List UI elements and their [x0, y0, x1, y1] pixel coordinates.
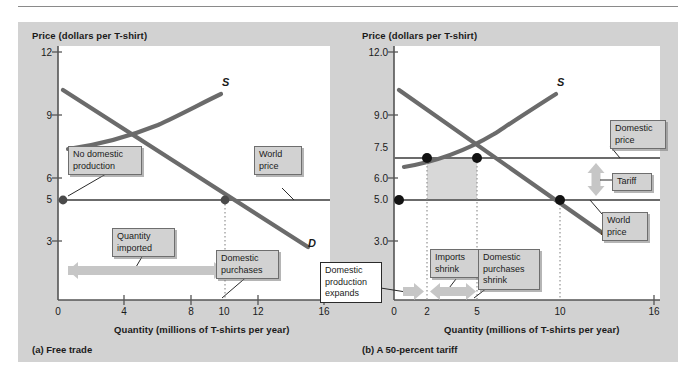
panel-b-marker-domestic-production [422, 153, 432, 163]
panel-b-marker-domestic-purchases [472, 153, 482, 163]
panel-b-imports-shrink-arrow [430, 283, 476, 300]
panel-a-demand-label: D [308, 237, 316, 249]
panel-b-graphics [348, 22, 678, 362]
panel-b-callout-domestic-purchases-shrink: Domestic purchases shrink [478, 249, 540, 290]
panel-a-quantity-imported-arrow [68, 262, 224, 279]
panel-a-callout-no-domestic-production: No domestic production [68, 146, 142, 175]
panel-a-callout-quantity-imported: Quantity imported [112, 228, 175, 257]
panel-a-marker-domestic-purchases [221, 196, 230, 205]
panel-b-callout-tariff: Tariff [612, 173, 652, 191]
panel-b-shaded-region [427, 158, 477, 200]
panel-a-callout-domestic-purchases: Domestic purchases [216, 250, 279, 279]
panel-b-leader-world-price [590, 200, 602, 214]
panel-a-graphics [18, 22, 348, 362]
panel-free-trade: Price (dollars per T-shirt) 12 9 6 5 3 0… [18, 22, 348, 362]
panel-b-production-expands-arrow [403, 283, 424, 300]
panel-b-marker-origin-world [394, 195, 404, 205]
top-rule-divider [18, 6, 678, 7]
panel-a-callout-world-price: World price [254, 146, 302, 175]
panel-a-leader-no-domestic [68, 174, 106, 196]
panel-a-leader-world-price [282, 188, 294, 200]
panel-a-marker-zero-production [59, 196, 68, 205]
panel-b-callout-world-price: World price [602, 212, 648, 241]
panel-b-supply-label: S [557, 76, 564, 88]
panel-b-callout-imports-shrink: Imports shrink [430, 249, 480, 278]
panel-b-marker-free-trade-purchases [555, 195, 565, 205]
panel-b-callout-domestic-production-expands: Domestic production expands [320, 262, 382, 303]
panel-b-callout-domestic-price: Domestic price [610, 120, 666, 149]
panel-a-supply-label: S [222, 76, 229, 88]
panel-tariff: Price (dollars per T-shirt) 12.0 9.0 7.5… [348, 22, 678, 362]
figure-container: Price (dollars per T-shirt) 12 9 6 5 3 0… [0, 0, 696, 383]
